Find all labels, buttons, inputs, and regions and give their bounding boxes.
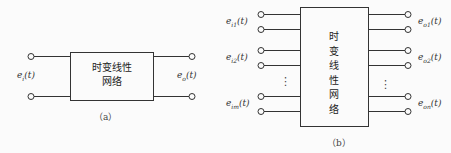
terminal-a-in-top <box>28 54 34 60</box>
network-char: 性 <box>327 74 341 89</box>
terminal-a-in-bottom <box>28 94 34 100</box>
input-label-b-2: ei2(t) <box>226 52 248 64</box>
output-label-a: eo(t) <box>177 70 197 82</box>
caption-a: （a） <box>94 110 117 123</box>
network-char: 网 <box>327 88 341 103</box>
input-label-a: ei(t) <box>17 70 35 82</box>
network-char: 络 <box>327 103 341 118</box>
input-ellipsis: ⋮ <box>280 76 286 88</box>
input-label-b-m: eim(t) <box>226 98 250 110</box>
network-label-a-line1: 时变线性 <box>70 61 154 75</box>
output-label-b-n: eon(t) <box>418 98 441 110</box>
caption-b: （b） <box>327 136 351 149</box>
terminal-a-out-top <box>189 54 195 60</box>
network-label-b: 时 变 线 性 网 络 <box>327 30 341 117</box>
input-label-b-1: ei1(t) <box>226 16 248 28</box>
terminal-a-out-bottom <box>189 94 195 100</box>
network-char: 线 <box>327 59 341 74</box>
output-label-b-1: eo1(t) <box>418 16 441 28</box>
network-label-a-line2: 网络 <box>70 75 154 89</box>
output-ellipsis: ⋮ <box>380 79 386 91</box>
network-label-a: 时变线性 网络 <box>70 61 154 89</box>
output-label-b-2: eo2(t) <box>418 52 441 64</box>
network-char: 时 <box>327 30 341 45</box>
network-char: 变 <box>327 45 341 60</box>
